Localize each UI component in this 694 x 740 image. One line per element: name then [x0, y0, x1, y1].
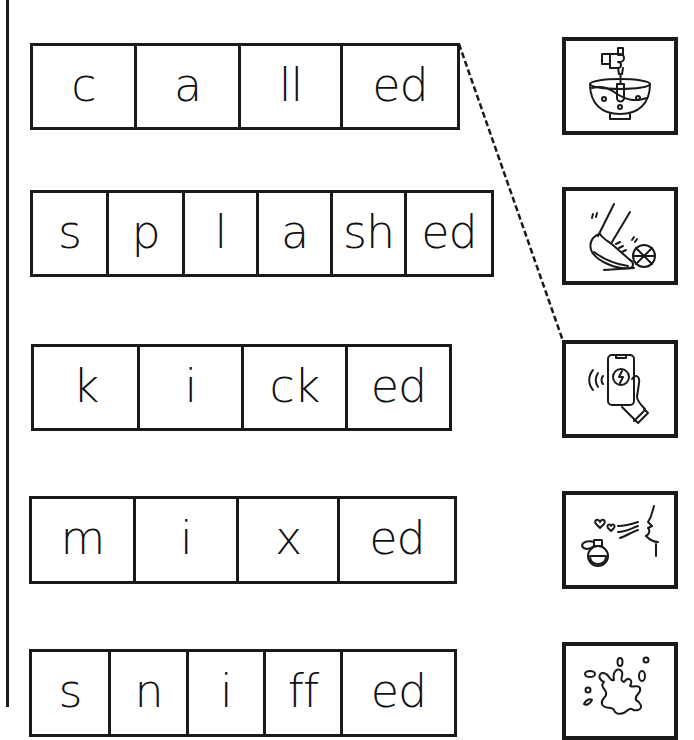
word-row-mixed[interactable]: m i x ed [29, 496, 457, 584]
letter-cell: s [33, 193, 109, 274]
phone-call-icon [574, 349, 666, 429]
picture-box-sniffing[interactable] [562, 491, 678, 589]
splash-icon [574, 652, 666, 732]
letter-cell: s [32, 652, 111, 734]
letter-cell: ll [241, 46, 343, 127]
letter-cell: x [239, 499, 340, 581]
letter-cell: p [109, 193, 185, 274]
letter-cell: ed [340, 499, 454, 581]
letter-cell: sh [333, 193, 407, 274]
letter-cell: i [140, 347, 244, 428]
picture-box-mixing[interactable] [562, 37, 678, 135]
letter-cell: ed [343, 652, 454, 734]
word-row-called[interactable]: c a ll ed [30, 43, 460, 130]
letter-cell: ff [266, 652, 343, 734]
picture-box-kicking[interactable] [562, 187, 678, 285]
word-row-splashed[interactable]: s p l a sh ed [30, 190, 494, 277]
picture-box-splashing[interactable] [562, 642, 678, 740]
letter-cell: i [189, 652, 266, 734]
letter-cell: c [33, 46, 137, 127]
mixing-bowl-icon [574, 46, 666, 126]
letter-cell: a [137, 46, 241, 127]
word-row-sniffed[interactable]: s n i ff ed [29, 649, 457, 737]
letter-cell: k [34, 347, 140, 428]
page-margin-line [6, 0, 9, 707]
letter-cell: a [259, 193, 333, 274]
kicking-ball-icon [574, 196, 666, 276]
letter-cell: i [136, 499, 239, 581]
letter-cell: m [32, 499, 136, 581]
letter-cell: ck [244, 347, 348, 428]
sniffing-perfume-icon [574, 500, 666, 580]
letter-cell: ed [343, 46, 457, 127]
letter-cell: n [111, 652, 189, 734]
letter-cell: ed [407, 193, 491, 274]
letter-cell: ed [348, 347, 449, 428]
letter-cell: l [185, 193, 259, 274]
word-row-kicked[interactable]: k i ck ed [31, 344, 452, 431]
picture-box-calling[interactable] [562, 340, 678, 438]
